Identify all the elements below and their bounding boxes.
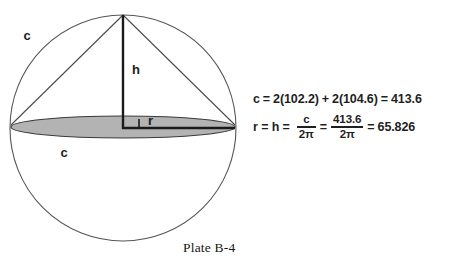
eq1-term-1: 2(102.2): [273, 92, 319, 106]
eq2-fraction-numeric: 413.6 2π: [331, 114, 363, 141]
eq2-frac2-numerator: 413.6: [331, 114, 363, 127]
eq2-equals-middle: =: [320, 120, 327, 134]
eq2-result: 65.826: [378, 120, 416, 134]
plate-caption: Plate B-4: [183, 240, 235, 256]
eq2-lhs: r = h =: [253, 120, 290, 134]
eq2-fraction-symbolic: c 2π: [297, 114, 316, 141]
label-c-base: c: [60, 145, 67, 160]
eq1-result: 413.6: [391, 92, 422, 106]
label-r: r: [148, 113, 153, 128]
equation-line-circumference: c = 2(102.2) + 2(104.6) = 413.6: [253, 88, 449, 110]
eq1-term-2: 2(104.6): [332, 92, 378, 106]
eq1-variable: c: [253, 92, 260, 106]
eq2-equals-end: =: [367, 120, 374, 134]
eq2-frac1-numerator: c: [301, 114, 311, 127]
label-h: h: [132, 62, 140, 77]
eq1-plus-sign: +: [322, 92, 329, 106]
eq1-equals-second: =: [381, 92, 388, 106]
equation-block: c = 2(102.2) + 2(104.6) = 413.6 r = h = …: [253, 88, 449, 142]
equation-line-radius-height: r = h = c 2π = 413.6 2π = 65.826: [253, 112, 449, 142]
eq2-frac2-denominator: 2π: [338, 128, 357, 141]
eq2-frac1-denominator: 2π: [297, 128, 316, 141]
label-c-arc: c: [23, 28, 30, 43]
eq1-equals-first: =: [263, 92, 270, 106]
